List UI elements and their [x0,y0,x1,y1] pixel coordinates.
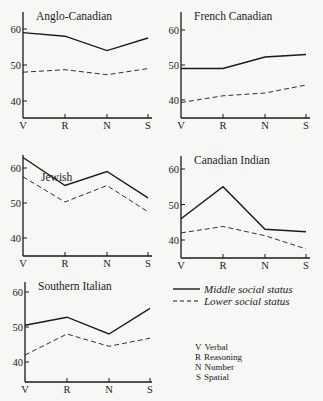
x-tick-label: V [177,260,185,271]
panel-title: Anglo-Canadian [36,10,112,23]
x-tick-label: R [219,120,226,131]
chart-panel: 405060VRNSJewish [11,155,153,269]
series-line-middle-status [181,55,306,69]
x-tick-label: S [145,258,151,269]
series-line-middle-status [25,308,150,334]
x-tick-label: S [303,260,309,271]
panels: 405060VRNSAnglo-Canadian405060VRNSFrench… [11,10,311,395]
key-item: VVerbal [195,342,228,352]
y-tick-label: 50 [169,60,180,71]
x-tick-label: V [21,384,29,395]
y-tick-label: 50 [11,198,22,209]
key-item: SSpatial [196,372,230,382]
legend-label-lower: Lower social status [203,295,290,307]
x-tick-label: N [105,384,113,395]
y-tick-label: 40 [169,235,180,246]
y-tick-label: 50 [13,322,24,333]
x-tick-label: R [63,384,70,395]
abbreviation-key: VVerbal RReasoning NNumber SSpatial [195,342,243,382]
x-tick-label: N [103,258,111,269]
y-tick-label: 40 [11,96,22,107]
x-tick-label: S [147,384,153,395]
key-item: NNumber [195,362,234,372]
x-tick-label: N [261,260,269,271]
key-item: RReasoning [195,352,243,362]
series-line-lower-status [23,69,148,75]
y-tick-label: 60 [11,24,22,35]
series-line-lower-status [25,334,150,355]
y-tick-label: 50 [169,200,180,211]
panel-title: Southern Italian [38,280,112,292]
y-tick-label: 40 [169,95,180,106]
x-tick-label: N [261,120,269,131]
x-tick-label: S [303,120,309,131]
y-tick-label: 60 [13,287,24,298]
y-tick-label: 60 [11,163,22,174]
x-tick-label: V [19,120,27,131]
legend-label-middle: Middle social status [203,283,293,295]
panel-title: Canadian Indian [194,154,270,166]
y-tick-label: 50 [11,60,22,71]
chart-panel: 405060VRNSFrench Canadian [169,10,311,131]
series-line-lower-status [181,227,306,249]
x-tick-label: R [61,120,68,131]
legend: Middle social status Lower social status [173,283,293,307]
chart-panel: 405060VRNSCanadian Indian [169,154,311,271]
x-tick-label: S [145,120,151,131]
y-tick-label: 60 [169,164,180,175]
series-line-lower-status [181,85,306,103]
x-tick-label: R [219,260,226,271]
y-tick-label: 60 [169,25,180,36]
panel-title: French Canadian [194,10,272,22]
x-tick-label: V [19,258,27,269]
figure: 405060VRNSAnglo-Canadian405060VRNSFrench… [0,0,323,401]
series-line-middle-status [181,187,306,232]
x-tick-label: N [103,120,111,131]
y-tick-label: 40 [13,357,24,368]
series-line-middle-status [23,33,148,51]
x-tick-label: V [177,120,185,131]
x-tick-label: R [61,258,68,269]
chart-panel: 405060VRNSSouthern Italian [13,280,154,395]
y-tick-label: 40 [11,233,22,244]
chart-panel: 405060VRNSAnglo-Canadian [11,10,153,131]
